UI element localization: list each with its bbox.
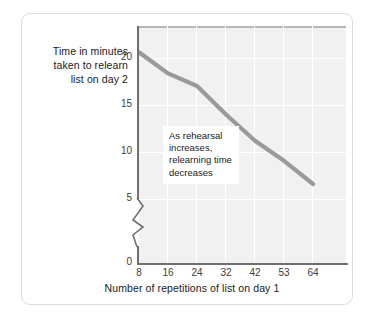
y-tick-label-0: 0 <box>110 256 132 267</box>
x-axis-tick-labels: 8 16 24 32 42 53 64 <box>138 267 348 283</box>
annotation-callout: As rehearsal increases, relearning time … <box>163 126 239 184</box>
x-tick-label-8: 8 <box>136 267 142 278</box>
x-tick-label-53: 53 <box>278 267 289 278</box>
y-axis-line-upper <box>137 26 139 200</box>
annotation-line-3: relearning time <box>169 154 232 166</box>
y-tick-label-20: 20 <box>110 51 132 62</box>
x-axis-title: Number of repetitions of list on day 1 <box>52 282 332 294</box>
annotation-line-4: decreases <box>169 167 232 179</box>
y-tick-label-5: 5 <box>110 192 132 203</box>
x-tick-label-32: 32 <box>220 267 231 278</box>
axis-break-zigzag <box>130 197 146 249</box>
annotation-line-2: increases, <box>169 142 232 154</box>
x-tick-label-42: 42 <box>249 267 260 278</box>
x-tick-label-16: 16 <box>162 267 173 278</box>
annotation-line-1: As rehearsal <box>169 130 232 142</box>
y-tick-label-10: 10 <box>110 145 132 156</box>
x-tick-label-24: 24 <box>191 267 202 278</box>
x-tick-label-64: 64 <box>307 267 318 278</box>
y-axis-tick-labels: 20 15 10 5 0 <box>106 14 132 306</box>
figure-card: Time in minutes taken to relearn list on… <box>21 13 353 305</box>
y-tick-label-15: 15 <box>110 98 132 109</box>
x-axis-line <box>137 263 348 265</box>
